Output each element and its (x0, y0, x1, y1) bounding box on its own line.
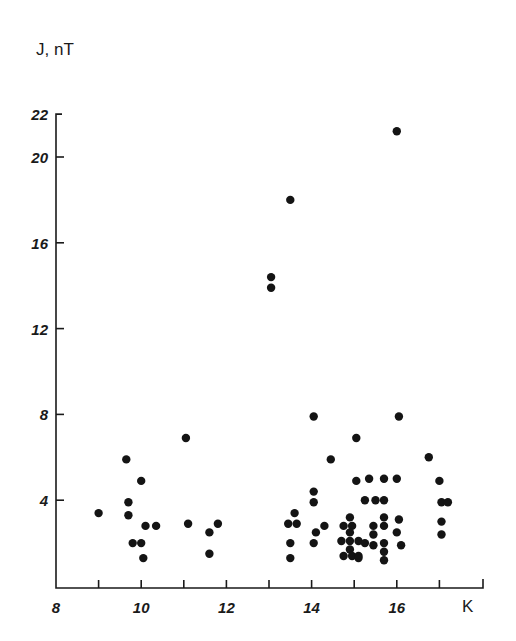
data-points (94, 127, 452, 564)
data-point (380, 539, 388, 547)
data-point (361, 496, 369, 504)
data-point (437, 517, 445, 525)
data-point (286, 196, 294, 204)
axis-lines (56, 114, 483, 588)
data-point (182, 434, 190, 442)
y-tick-label: 4 (39, 492, 49, 509)
data-point (312, 528, 320, 536)
axes (56, 114, 483, 588)
x-axis-title: K (462, 597, 474, 616)
data-point (310, 412, 318, 420)
scatter-plot: 4812162022810121416 J, nT K (0, 0, 516, 641)
data-point (293, 520, 301, 528)
x-tick-label: 16 (388, 599, 405, 616)
data-point (444, 498, 452, 506)
data-point (320, 522, 328, 530)
data-point (380, 548, 388, 556)
data-point (346, 528, 354, 536)
data-point (141, 522, 149, 530)
data-point (124, 498, 132, 506)
data-point (352, 434, 360, 442)
data-point (339, 522, 347, 530)
data-point (369, 530, 377, 538)
data-point (435, 477, 443, 485)
data-point (205, 528, 213, 536)
data-point (393, 127, 401, 135)
data-point (286, 554, 294, 562)
data-point (425, 453, 433, 461)
data-point (152, 522, 160, 530)
data-point (437, 530, 445, 538)
y-tick-label: 16 (31, 235, 48, 252)
x-tick-label: 10 (133, 599, 150, 616)
x-tick-label: 8 (52, 599, 61, 616)
data-point (397, 541, 405, 549)
data-point (365, 475, 373, 483)
data-point (284, 520, 292, 528)
data-point (310, 487, 318, 495)
data-point (184, 520, 192, 528)
data-point (369, 522, 377, 530)
data-point (395, 515, 403, 523)
data-point (371, 496, 379, 504)
data-point (337, 537, 345, 545)
data-point (137, 539, 145, 547)
data-point (380, 475, 388, 483)
y-tick-label: 12 (31, 321, 48, 338)
data-point (290, 509, 298, 517)
x-tick-label: 12 (218, 599, 235, 616)
y-tick-label: 20 (30, 149, 48, 166)
data-point (124, 511, 132, 519)
data-point (339, 552, 347, 560)
data-point (267, 273, 275, 281)
x-tick-label: 14 (303, 599, 320, 616)
data-point (380, 513, 388, 521)
data-point (361, 539, 369, 547)
data-point (94, 509, 102, 517)
data-point (214, 520, 222, 528)
data-point (286, 539, 294, 547)
data-point (346, 513, 354, 521)
data-point (129, 539, 137, 547)
data-point (369, 541, 377, 549)
data-point (137, 477, 145, 485)
data-point (139, 554, 147, 562)
data-point (380, 556, 388, 564)
data-point (352, 477, 360, 485)
data-point (310, 539, 318, 547)
data-point (310, 498, 318, 506)
data-point (205, 550, 213, 558)
y-axis-title: J, nT (36, 40, 74, 59)
data-point (393, 475, 401, 483)
data-point (395, 412, 403, 420)
data-point (393, 528, 401, 536)
y-tick-label: 22 (30, 106, 48, 123)
data-point (327, 455, 335, 463)
data-point (267, 284, 275, 292)
data-point (380, 496, 388, 504)
y-tick-label: 8 (40, 406, 49, 423)
data-point (380, 522, 388, 530)
data-point (354, 554, 362, 562)
data-point (346, 537, 354, 545)
data-point (122, 455, 130, 463)
